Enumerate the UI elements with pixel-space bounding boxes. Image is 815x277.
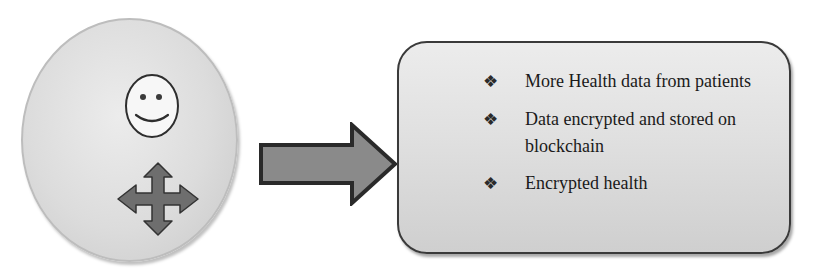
diamond-bullet-icon: ❖ (483, 68, 525, 96)
list-item: ❖ Encrypted health (483, 170, 773, 198)
four-way-move-arrows-icon (117, 162, 199, 236)
user-node-circle (21, 18, 238, 262)
smiley-face-icon (123, 72, 181, 140)
list-item: ❖ Data encrypted and stored on blockchai… (483, 106, 773, 160)
flow-arrow-right-icon (258, 122, 398, 206)
list-item-text: Data encrypted and stored on blockchain (525, 106, 773, 160)
list-item: ❖ More Health data from patients (483, 68, 773, 96)
diamond-bullet-icon: ❖ (483, 106, 525, 134)
info-box: ❖ More Health data from patients ❖ Data … (397, 41, 791, 254)
diamond-bullet-icon: ❖ (483, 170, 525, 198)
bullet-list: ❖ More Health data from patients ❖ Data … (483, 68, 773, 208)
list-item-text: Encrypted health (525, 170, 647, 197)
list-item-text: More Health data from patients (525, 68, 751, 95)
